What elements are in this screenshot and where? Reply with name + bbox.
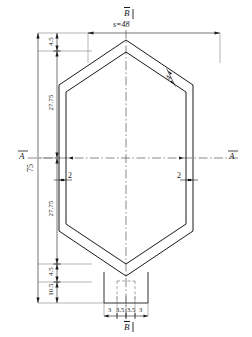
- dimension-chain-bottom-item-2: 3.5: [127, 307, 135, 314]
- section-label-b-bottom: B: [124, 321, 130, 332]
- dimension-wall-right-text: 2: [177, 172, 181, 180]
- section-label-b-top-text: B: [124, 8, 130, 18]
- section-label-a-left-text: A: [19, 151, 25, 161]
- dimension-chain-left-item-1: 27.75: [48, 90, 55, 116]
- dimension-chain-bottom-item-1: 3.5: [116, 307, 124, 314]
- section-label-a-left: A: [19, 152, 25, 161]
- dimension-wall-left-arrows: [59, 179, 66, 182]
- section-label-b-top: B: [124, 7, 130, 18]
- dimension-chain-left-item-2: 27.75: [48, 196, 55, 222]
- dimension-chain-bottom-item-3: 3: [139, 307, 142, 314]
- dimension-overall-height-text: 75: [27, 161, 35, 175]
- section-label-a-right-text: A: [229, 151, 235, 161]
- dimension-across-flats: s=48: [113, 21, 130, 29]
- dimension-chain-left-item-0: 4.5: [48, 34, 55, 50]
- drawing-canvas: [0, 0, 252, 337]
- technical-drawing: B s=48 B A A 75 4.5 27.75 27.75 4.5 10.5…: [0, 0, 252, 337]
- dimension-chain-bottom-item-0: 3: [108, 307, 111, 314]
- dimension-wall-left-text: 2: [68, 172, 72, 180]
- section-label-a-right: A: [229, 152, 235, 161]
- dimension-chain-left-item-4: 10.5: [48, 280, 55, 300]
- dimension-chain-left-item-3: 4.5: [48, 264, 55, 280]
- dimension-wall-right-arrows: [186, 179, 193, 182]
- section-label-b-bottom-text: B: [124, 322, 130, 332]
